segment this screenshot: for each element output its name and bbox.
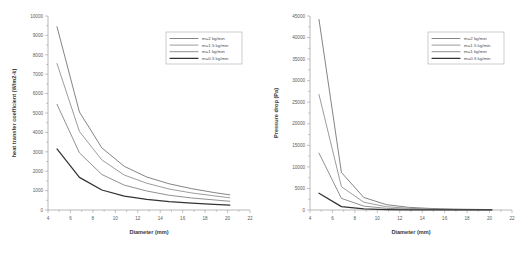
x-axis-title: Diameter (mm) xyxy=(129,229,168,235)
y-tick-label: 3000 xyxy=(33,150,44,155)
y-tick-label: 8000 xyxy=(33,53,44,58)
chart-panel-heat-transfer: 0100020003000400050006000700080009000100… xyxy=(0,0,262,258)
y-tick-label: 0 xyxy=(302,208,305,213)
y-axis-title: Pressure drop (Pa) xyxy=(273,88,279,138)
y-tick-label: 9000 xyxy=(33,33,44,38)
x-tick-label: 16 xyxy=(442,216,448,221)
x-tick-label: 18 xyxy=(465,216,471,221)
chart-panel-pressure-drop: 0500010000150002000025000300003500040000… xyxy=(262,0,524,258)
x-tick-label: 14 xyxy=(420,216,426,221)
figure-root: 0100020003000400050006000700080009000100… xyxy=(0,0,524,258)
legend-label-m05: m=0.5 kg/min xyxy=(464,56,491,61)
y-tick-label: 25000 xyxy=(292,100,305,105)
x-tick-label: 6 xyxy=(69,216,72,221)
y-tick-label: 2000 xyxy=(33,169,44,174)
legend-label-m1: m=1 kg/min xyxy=(464,49,487,54)
y-tick-label: 10000 xyxy=(292,165,305,170)
legend-label-m15: m=1.5 kg/min xyxy=(464,43,491,48)
x-tick-label: 10 xyxy=(113,216,119,221)
x-tick-label: 4 xyxy=(47,216,50,221)
y-tick-label: 7000 xyxy=(33,72,44,77)
y-tick-label: 35000 xyxy=(292,57,305,62)
x-tick-label: 6 xyxy=(331,216,334,221)
y-tick-label: 45000 xyxy=(292,14,305,19)
x-axis-title: Diameter (mm) xyxy=(391,229,430,235)
x-tick-label: 4 xyxy=(309,216,312,221)
x-tick-label: 20 xyxy=(225,216,231,221)
y-tick-label: 15000 xyxy=(292,143,305,148)
y-tick-label: 6000 xyxy=(33,91,44,96)
legend-label-m05: m=0.5 kg/min xyxy=(202,56,229,61)
x-tick-label: 12 xyxy=(397,216,403,221)
y-tick-label: 5000 xyxy=(33,111,44,116)
legend-label-m2: m=2 kg/min xyxy=(464,36,487,41)
y-axis-title: heat transfer coefficient (W/m2-k) xyxy=(11,69,17,158)
series-line-m15 xyxy=(319,94,492,209)
x-tick-label: 14 xyxy=(158,216,164,221)
pressure-drop-chart: 0500010000150002000025000300003500040000… xyxy=(262,0,524,258)
y-tick-label: 40000 xyxy=(292,35,305,40)
x-tick-label: 8 xyxy=(92,216,95,221)
series-line-m15 xyxy=(57,64,230,198)
series-line-m05 xyxy=(319,193,492,210)
series-line-m1 xyxy=(57,104,230,201)
legend-label-m15: m=1.5 kg/min xyxy=(202,43,229,48)
y-tick-label: 10000 xyxy=(30,14,43,19)
x-tick-label: 22 xyxy=(247,216,253,221)
series-line-m1 xyxy=(319,153,492,210)
legend-label-m2: m=2 kg/min xyxy=(202,36,225,41)
x-tick-label: 16 xyxy=(180,216,186,221)
y-tick-label: 0 xyxy=(40,208,43,213)
x-tick-label: 18 xyxy=(203,216,209,221)
y-tick-label: 30000 xyxy=(292,78,305,83)
x-tick-label: 20 xyxy=(487,216,493,221)
x-tick-label: 22 xyxy=(509,216,515,221)
x-tick-label: 8 xyxy=(354,216,357,221)
legend-label-m1: m=1 kg/min xyxy=(202,49,225,54)
x-tick-label: 12 xyxy=(135,216,141,221)
x-tick-label: 10 xyxy=(375,216,381,221)
series-line-m05 xyxy=(57,149,230,205)
heat-transfer-chart: 0100020003000400050006000700080009000100… xyxy=(0,0,262,258)
y-tick-label: 5000 xyxy=(295,186,306,191)
y-tick-label: 20000 xyxy=(292,121,305,126)
y-tick-label: 1000 xyxy=(33,188,44,193)
y-tick-label: 4000 xyxy=(33,130,44,135)
